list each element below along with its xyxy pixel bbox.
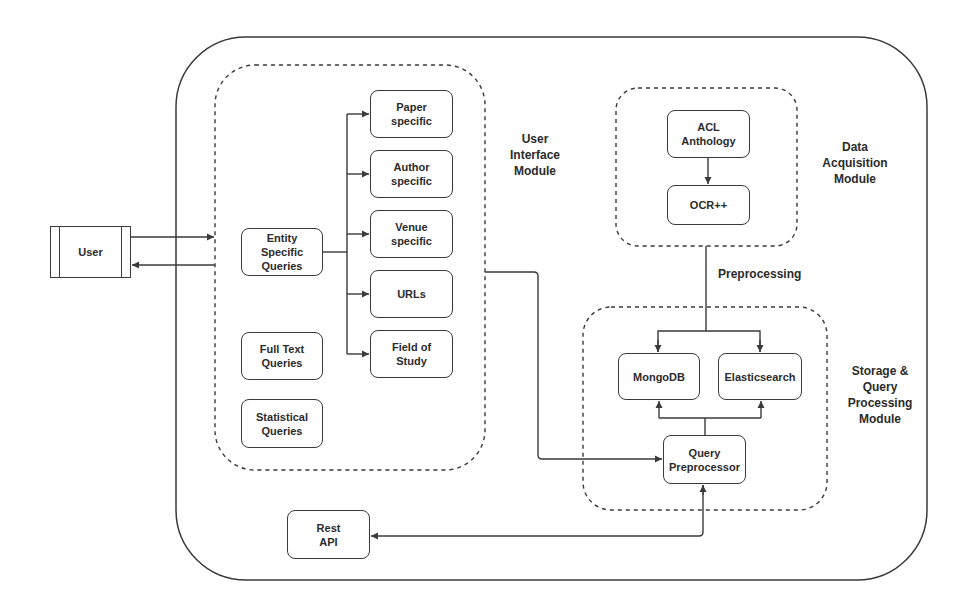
edge-preprocessing-split <box>658 331 760 352</box>
user-interface-module-label: User Interface Module <box>495 131 575 179</box>
paper-specific-node: Paper specific <box>370 90 453 138</box>
statistical-queries-node: Statistical Queries <box>241 399 323 448</box>
ocr-pp-node: OCR++ <box>667 185 750 225</box>
acl-anthology-node: ACL Anthology <box>667 110 750 158</box>
mongodb-node: MongoDB <box>618 353 700 400</box>
field-of-study-node: Field of Study <box>370 330 453 378</box>
urls-node: URLs <box>370 270 453 318</box>
data-acquisition-module-label: Data Acquisition Module <box>805 139 905 187</box>
query-preprocessor-node: Query Preprocessor <box>663 435 746 484</box>
system-boundary <box>176 37 927 580</box>
entity-specific-queries-node: Entity Specific Queries <box>241 228 323 276</box>
diagram-wires <box>0 0 977 607</box>
preprocessing-label: Preprocessing <box>718 266 818 282</box>
rest-api-node: Rest API <box>287 510 370 559</box>
storage-query-module-label: Storage & Query Processing Module <box>835 363 925 427</box>
author-specific-node: Author specific <box>370 150 453 198</box>
venue-specific-node: Venue specific <box>370 210 453 258</box>
elasticsearch-node: Elasticsearch <box>718 353 802 400</box>
full-text-queries-node: Full Text Queries <box>241 332 323 380</box>
user-node: User <box>50 226 131 278</box>
